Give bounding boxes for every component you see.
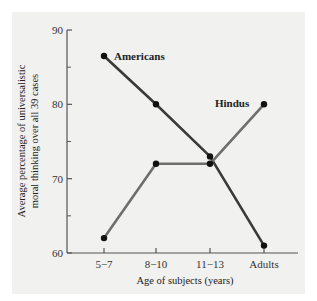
x-tick-label: 8−10: [145, 258, 168, 270]
series-line-americans: [104, 56, 264, 246]
y-tick-label: 60: [52, 247, 64, 259]
data-point-hindus: [153, 161, 159, 167]
data-point-hindus: [261, 101, 267, 107]
data-point-americans: [101, 53, 107, 59]
data-point-hindus: [101, 235, 107, 241]
y-tick-label: 70: [52, 173, 64, 185]
y-tick-label: 90: [52, 24, 64, 36]
data-point-hindus: [207, 161, 213, 167]
x-axis-title: Age of subjects (years): [136, 275, 234, 287]
y-axis-title-line-2: moral thinking over all 39 cases: [29, 74, 40, 208]
series-label-hindus: Hindus: [215, 97, 250, 109]
data-point-americans: [153, 101, 159, 107]
y-axis-title-line-1: Average percentage of universalistic: [16, 64, 27, 217]
series-group: [101, 53, 267, 249]
x-tick-label: Adults: [249, 258, 278, 270]
y-tick-label: 80: [52, 98, 64, 110]
y-axis-title: Average percentage of universalistic mor…: [16, 64, 40, 217]
x-tick-label: 5−7: [95, 258, 113, 270]
series-label-americans: Americans: [114, 50, 165, 62]
axes: 607080905−78−1011−13Adults: [52, 24, 298, 270]
series-line-hindus: [104, 104, 264, 238]
line-chart: 607080905−78−1011−13Adults Americans Hin…: [0, 0, 317, 301]
x-tick-label: 11−13: [196, 258, 224, 270]
data-point-americans: [207, 153, 213, 159]
data-point-americans: [261, 242, 267, 248]
